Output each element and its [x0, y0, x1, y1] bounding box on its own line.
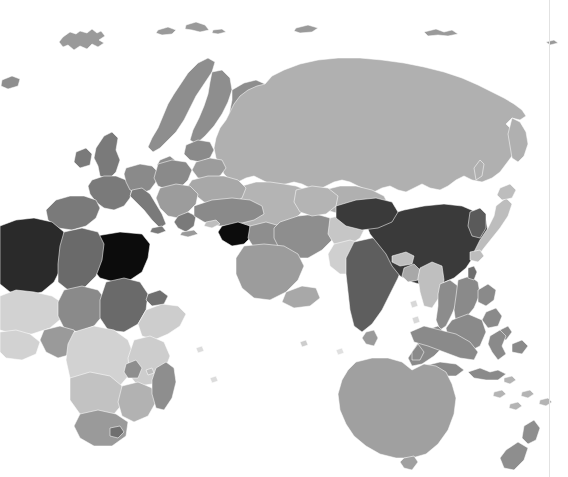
right-panel-divider — [549, 0, 550, 477]
choropleth-map-figure — [0, 0, 568, 477]
world-map-svg — [0, 0, 568, 477]
